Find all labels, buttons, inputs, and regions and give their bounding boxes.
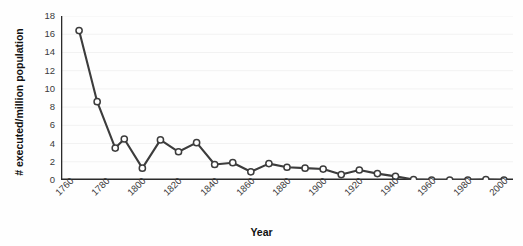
y-tick-label: 4	[35, 138, 55, 149]
y-tick-label: 16	[35, 28, 55, 39]
y-tick-label: 12	[35, 65, 55, 76]
plot-area	[61, 16, 513, 180]
y-tick-label: 0	[35, 174, 55, 185]
y-tick-label: 6	[35, 119, 55, 130]
chart-figure: # executed/million population Year 02468…	[0, 0, 523, 246]
data-line	[79, 31, 504, 180]
x-axis-label: Year	[0, 226, 523, 238]
chart-title	[248, 0, 513, 7]
axis-ticks	[61, 16, 513, 180]
x-tick-label: 1760	[53, 175, 76, 198]
line-chart-svg	[61, 16, 513, 180]
y-tick-label: 10	[35, 83, 55, 94]
data-point-markers	[76, 27, 507, 180]
gridlines	[61, 16, 513, 180]
y-tick-label: 2	[35, 156, 55, 167]
y-tick-label: 14	[35, 46, 55, 57]
y-tick-label: 18	[35, 10, 55, 21]
axis-lines	[61, 16, 513, 180]
y-axis-label: # executed/million population	[13, 9, 25, 195]
y-tick-label: 8	[35, 101, 55, 112]
